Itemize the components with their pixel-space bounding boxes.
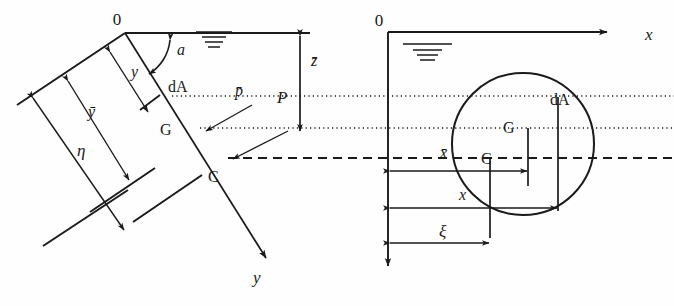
leader-arrow-da	[206, 105, 252, 131]
label-axis-x-right: x	[644, 25, 653, 44]
label-center-pressure-left: C	[208, 168, 219, 185]
label-p-resultant: P	[276, 88, 287, 107]
figure-canvas: 0 a y ȳ η z̄ dA p̄ P G C y	[0, 0, 674, 306]
label-origin-right: 0	[375, 11, 384, 30]
da-tick-mark	[140, 95, 160, 110]
water-surface-symbol-right	[403, 44, 452, 60]
label-xi: ξ	[439, 222, 447, 241]
label-axis-y-left: y	[251, 268, 261, 287]
dimension-arrow-eta	[33, 98, 124, 230]
dimension-arrow-y-bar	[68, 81, 129, 180]
submerged-plate-circle	[452, 73, 594, 215]
label-y-bar: ȳ	[86, 103, 96, 121]
right-panel-group: 0 x dA G C x̄ x ξ	[375, 11, 653, 266]
plate-y-axis	[125, 33, 266, 258]
label-z-bar: z̄	[310, 52, 318, 69]
label-angle-a: a	[177, 41, 185, 58]
angle-arc	[149, 40, 170, 74]
label-p-bar: p̄	[234, 82, 243, 100]
label-origin-left: 0	[113, 10, 122, 29]
hydrostatic-pressure-diagram: 0 a y ȳ η z̄ dA p̄ P G C y	[0, 0, 674, 306]
water-surface-symbol-left	[196, 32, 232, 47]
left-panel-group: 0 a y ȳ η z̄ dA p̄ P G C y	[17, 10, 674, 287]
label-center-pressure-right: C	[481, 150, 492, 167]
label-centroid-right: G	[503, 119, 515, 136]
label-x-bar: x̄	[439, 144, 447, 161]
label-da-left: dA	[168, 78, 188, 95]
plate-segment-c	[133, 175, 202, 222]
plate-segment-g	[90, 168, 155, 212]
label-x: x	[458, 186, 466, 203]
plate-upper-edge	[17, 33, 125, 105]
label-eta: η	[77, 141, 85, 160]
leader-arrow-c	[233, 131, 288, 159]
label-y: y	[129, 63, 139, 81]
label-centroid-left: G	[160, 121, 172, 138]
label-da-right: dA	[550, 91, 570, 108]
